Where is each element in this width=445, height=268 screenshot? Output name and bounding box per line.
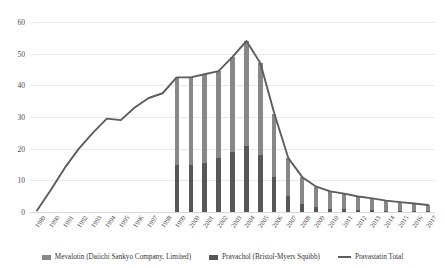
x-axis-tick-label: 2000 [187, 214, 200, 229]
chart-legend: Mevalotin (Daiichi Sankyo Company, Limit… [0, 246, 445, 268]
x-axis-tick-label: 2017 [424, 214, 437, 229]
legend-item[interactable]: Pravastatin Total [338, 253, 403, 261]
chart-figure: 0102030405060 19891990199119921993199419… [0, 0, 445, 268]
x-axis-tick-label: 2013 [369, 214, 382, 229]
x-axis-tick-label: 2016 [410, 214, 423, 229]
x-axis-tick-label: 1992 [75, 214, 88, 229]
x-axis-tick-label: 1997 [145, 214, 158, 229]
x-axis-tick-label: 1994 [103, 214, 116, 229]
x-axis-tick-label: 1991 [61, 214, 74, 229]
x-axis-tick-label: 2008 [299, 214, 312, 229]
x-axis-tick-label: 2007 [285, 214, 298, 229]
x-axis-tick-label: 2014 [383, 214, 396, 229]
x-axis-tick-label: 2011 [341, 214, 354, 229]
legend-item[interactable]: Mevalotin (Daiichi Sankyo Company, Limit… [42, 253, 191, 261]
x-axis-tick-label: 1998 [159, 214, 172, 229]
legend-bar-icon [209, 255, 218, 260]
x-axis-tick-label: 2001 [201, 214, 214, 229]
y-axis-tick-label: 50 [18, 49, 26, 58]
legend-item-label: Pravastatin Total [355, 253, 403, 261]
x-axis-tick-label: 1996 [131, 214, 144, 229]
plot-area [30, 22, 435, 212]
y-axis-tick-label: 40 [18, 81, 26, 90]
y-axis: 0102030405060 [0, 22, 30, 212]
x-axis-tick-label: 2010 [327, 214, 340, 229]
x-axis-tick-label: 1990 [47, 214, 60, 229]
x-axis-tick-label: 2003 [229, 214, 242, 229]
legend-item-label: Pravachol (Bristol-Myers Squibb) [222, 253, 320, 261]
legend-item[interactable]: Pravachol (Bristol-Myers Squibb) [209, 253, 320, 261]
x-axis: 1989199019911992199319941995199619971998… [30, 212, 435, 246]
x-axis-tick-label: 2009 [313, 214, 326, 229]
y-axis-tick-label: 60 [18, 18, 26, 27]
y-axis-tick-label: 10 [18, 176, 26, 185]
line-layer [30, 22, 435, 212]
x-axis-tick-label: 1999 [173, 214, 186, 229]
x-axis-tick-label: 1989 [33, 214, 46, 229]
legend-bar-icon [42, 255, 51, 260]
x-axis-tick-label: 1995 [117, 214, 130, 229]
y-axis-tick-label: 30 [18, 113, 26, 122]
y-axis-tick-label: 0 [21, 208, 25, 217]
legend-item-label: Mevalotin (Daiichi Sankyo Company, Limit… [55, 253, 191, 261]
x-axis-tick-label: 2015 [397, 214, 410, 229]
legend-line-icon [338, 256, 351, 259]
x-axis-tick-label: 1993 [89, 214, 102, 229]
pravastatin-total-line [37, 41, 428, 210]
x-axis-tick-label: 2004 [243, 214, 256, 229]
x-axis-tick-label: 2005 [257, 214, 270, 229]
y-axis-tick-label: 20 [18, 144, 26, 153]
x-axis-tick-label: 2006 [271, 214, 284, 229]
x-axis-tick-label: 2012 [355, 214, 368, 229]
x-axis-tick-label: 2002 [215, 214, 228, 229]
